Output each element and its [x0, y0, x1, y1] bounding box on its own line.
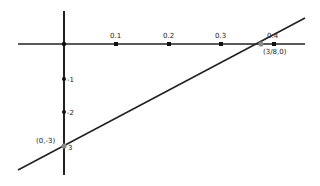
svg-text:-2: -2: [67, 109, 74, 117]
y-intercept: (0,-3): [36, 137, 67, 149]
svg-text:0.1: 0.1: [110, 32, 121, 40]
svg-text:0.4: 0.4: [267, 32, 279, 40]
svg-text:3: 3: [68, 144, 72, 152]
svg-text:0.3: 0.3: [215, 32, 226, 40]
y-tick-minus-3: 3: [68, 144, 72, 152]
svg-text:(3/8,0): (3/8,0): [263, 48, 287, 56]
svg-text:-1: -1: [67, 76, 74, 84]
svg-text:(0,-3): (0,-3): [36, 137, 55, 145]
svg-text:0.2: 0.2: [163, 32, 174, 40]
coordinate-graph: 0.1 0.2 0.3 0.4 -1 -2 3 (3/8,0) (0,-3): [0, 0, 320, 186]
origin-point: [62, 42, 66, 46]
graphed-line: [18, 18, 305, 170]
